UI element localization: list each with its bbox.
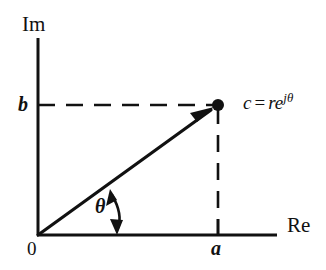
equation-magnitude-r: r (268, 92, 275, 113)
complex-vector-line (38, 110, 211, 235)
real-axis-label: Re (287, 215, 310, 236)
imaginary-axis-label: Im (22, 14, 45, 35)
point-label-equation: c=rejθ (243, 92, 293, 112)
vector-arrowhead (190, 107, 214, 122)
vector-endpoint-dot (212, 99, 224, 111)
imaginary-tick-label-b: b (18, 94, 28, 114)
angle-arrowhead-lower (110, 219, 123, 235)
equation-operator: = (251, 92, 268, 113)
complex-plane-diagram: Im Re b a 0 θ c=rejθ (0, 0, 326, 270)
real-tick-label-a: a (211, 238, 221, 258)
diagram-canvas (0, 0, 326, 270)
angle-theta-label: θ (95, 196, 105, 216)
equation-exponent: jθ (283, 90, 293, 105)
origin-label: 0 (27, 239, 37, 258)
